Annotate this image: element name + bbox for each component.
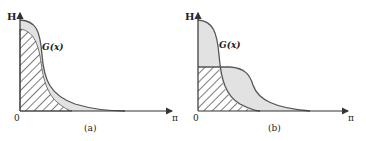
figure: H G(x) 0 π (a) H G(x) 0 π (b) [0, 0, 366, 141]
x-end-label-a: π [172, 113, 178, 123]
caption-a: (a) [84, 123, 96, 133]
panel-a: H G(x) 0 π (a) [7, 11, 178, 133]
x-origin-label-a: 0 [14, 113, 20, 123]
curve-label-b: G(x) [219, 40, 241, 50]
x-end-label-b: π [348, 113, 354, 123]
panel-b: H G(x) 0 π (b) [185, 11, 354, 133]
caption-b: (b) [268, 123, 281, 133]
y-axis-label-a: H [7, 11, 16, 22]
x-origin-label-b: 0 [193, 113, 199, 123]
curve-label-a: G(x) [42, 42, 64, 52]
y-axis-label-b: H [185, 11, 194, 22]
